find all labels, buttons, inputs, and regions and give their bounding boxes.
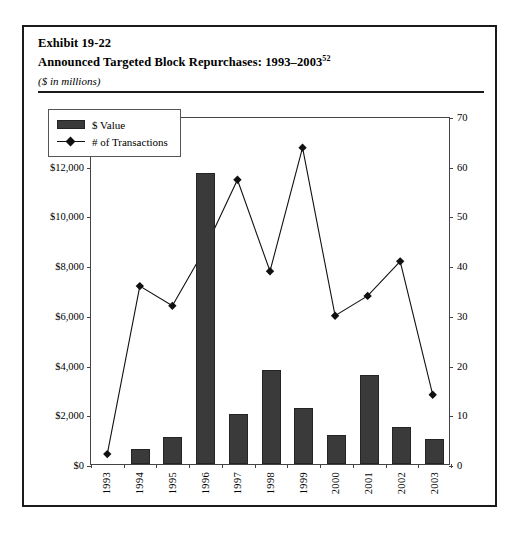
y-axis-right-tickmark (449, 367, 453, 368)
exhibit-title-footnote: 52 (322, 54, 330, 63)
x-axis-label-1998: 1998 (265, 472, 276, 494)
y-axis-right-tick-label: 0 (449, 461, 503, 471)
bar-1996 (196, 173, 215, 464)
x-axis-tickmark (189, 464, 190, 468)
exhibit-title: Announced Targeted Block Repurchases: 19… (38, 51, 484, 70)
y-axis-right-tick-label: 10 (449, 411, 503, 421)
y-axis-right-tickmark (449, 267, 453, 268)
y-axis-left-tickmark (87, 416, 91, 417)
bar-1999 (294, 408, 313, 464)
x-axis-tickmark (222, 464, 223, 468)
bar-2002 (392, 427, 411, 464)
y-axis-left-tick-label: $0 (22, 461, 91, 471)
x-axis-label-1999: 1999 (298, 472, 309, 494)
x-axis-tickmark (124, 464, 125, 468)
y-axis-right-tickmark (449, 118, 453, 119)
y-axis-right-tick-label: 40 (449, 262, 503, 272)
y-axis-right-tick-label: 50 (449, 212, 503, 222)
transactions-marker-2002 (396, 257, 404, 265)
plot-area: $0$2,000$4,000$6,000$8,000$10,000$12,000… (90, 117, 450, 465)
legend-item-transactions: # of Transactions (57, 133, 168, 150)
exhibit-header: Exhibit 19-22 Announced Targeted Block R… (38, 35, 484, 89)
exhibit-number: Exhibit 19-22 (38, 35, 484, 51)
x-axis-tickmark (255, 464, 256, 468)
x-axis-label-1995: 1995 (167, 472, 178, 494)
y-axis-left-tick-label: $6,000 (22, 312, 91, 322)
transactions-marker-2001 (363, 292, 371, 300)
y-axis-right-tickmark (449, 317, 453, 318)
bar-1998 (262, 370, 281, 464)
transactions-marker-1999 (298, 143, 306, 151)
plot-inner: $0$2,000$4,000$6,000$8,000$10,000$12,000… (91, 118, 449, 464)
transactions-marker-1995 (168, 302, 176, 310)
transactions-marker-1997 (233, 176, 241, 184)
x-axis-label-2000: 2000 (330, 472, 341, 494)
bar-2003 (425, 439, 444, 464)
transactions-marker-1993 (103, 450, 111, 458)
y-axis-left-tickmark (87, 367, 91, 368)
exhibit-title-text: Announced Targeted Block Repurchases: 19… (38, 55, 322, 69)
transactions-marker-1994 (136, 282, 144, 290)
bar-swatch-icon (57, 120, 85, 129)
y-axis-left-tick-label: $12,000 (22, 163, 91, 173)
y-axis-left-tickmark (87, 267, 91, 268)
x-axis-label-2001: 2001 (363, 472, 374, 494)
y-axis-right-tick-label: 60 (449, 163, 503, 173)
x-axis-tickmark (156, 464, 157, 468)
legend-item-value: $ Value (57, 116, 168, 133)
y-axis-right-tick-label: 70 (449, 113, 503, 123)
y-axis-left-tick-label: $4,000 (22, 362, 91, 372)
x-axis-tickmark (320, 464, 321, 468)
chart-area: $0$2,000$4,000$6,000$8,000$10,000$12,000… (24, 101, 495, 505)
legend-label-transactions: # of Transactions (92, 136, 168, 148)
legend-label-value: $ Value (92, 119, 125, 131)
exhibit-frame: Exhibit 19-22 Announced Targeted Block R… (22, 25, 497, 507)
x-axis-label-1996: 1996 (200, 472, 211, 494)
y-axis-right-tick-label: 20 (449, 362, 503, 372)
transactions-marker-2003 (429, 391, 437, 399)
y-axis-left-tick-label: $10,000 (22, 212, 91, 222)
bar-2001 (360, 375, 379, 464)
x-axis-label-1993: 1993 (101, 472, 112, 494)
exhibit-units-note: ($ in millions) (38, 74, 484, 89)
y-axis-right-tickmark (449, 416, 453, 417)
x-axis-tickmark (418, 464, 419, 468)
bar-1997 (229, 414, 248, 464)
x-axis-label-2003: 2003 (429, 472, 440, 494)
x-axis-label-2002: 2002 (396, 472, 407, 494)
y-axis-right-tick-label: 30 (449, 312, 503, 322)
y-axis-right-tickmark (449, 217, 453, 218)
line-diamond-swatch-icon (57, 137, 85, 146)
bar-1995 (163, 437, 182, 464)
y-axis-right-tickmark (449, 168, 453, 169)
transactions-marker-1998 (266, 267, 274, 275)
transactions-marker-2000 (331, 312, 339, 320)
y-axis-left-tickmark (87, 317, 91, 318)
x-axis-tickmark (451, 464, 452, 468)
y-axis-left-tickmark (87, 217, 91, 218)
chart-legend: $ Value # of Transactions (48, 109, 181, 157)
x-axis-tickmark (353, 464, 354, 468)
x-axis-tickmark (287, 464, 288, 468)
header-divider (38, 91, 484, 93)
x-axis-tickmark (386, 464, 387, 468)
x-axis-tickmark (91, 464, 92, 468)
x-axis-label-1997: 1997 (232, 472, 243, 494)
y-axis-left-tick-label: $2,000 (22, 411, 91, 421)
bar-1994 (131, 449, 150, 464)
y-axis-left-tick-label: $8,000 (22, 262, 91, 272)
x-axis-label-1994: 1994 (134, 472, 145, 494)
bar-2000 (327, 435, 346, 464)
y-axis-left-tickmark (87, 168, 91, 169)
